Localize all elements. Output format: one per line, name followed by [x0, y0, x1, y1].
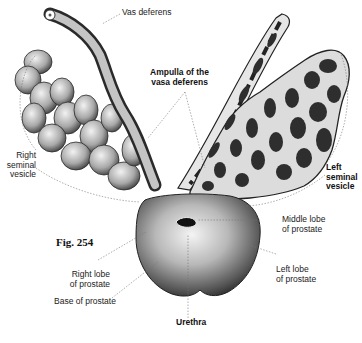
- label-right-seminal-vesicle: Right seminal vesicle: [4, 151, 36, 180]
- label-base-of-prostate: Base of prostate: [54, 297, 116, 307]
- label-left-seminal-vesicle: Left seminal vesicle: [326, 163, 358, 192]
- label-vas-deferens: Vas deferens: [122, 8, 171, 18]
- illustration: [0, 0, 362, 343]
- figure-number: Fig. 254: [56, 236, 93, 248]
- label-right-lobe: Right lobe of prostate: [40, 270, 110, 289]
- anatomy-figure: Vas deferens Ampulla of the vasa deferen…: [0, 0, 362, 343]
- label-ampulla: Ampulla of the vasa deferens: [150, 68, 209, 87]
- label-left-lobe: Left lobe of prostate: [276, 265, 316, 284]
- label-urethra: Urethra: [176, 318, 206, 328]
- label-middle-lobe: Middle lobe of prostate: [282, 215, 325, 234]
- urethra-opening: [176, 218, 196, 228]
- prostate-shape: [136, 194, 260, 296]
